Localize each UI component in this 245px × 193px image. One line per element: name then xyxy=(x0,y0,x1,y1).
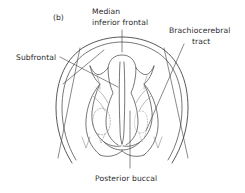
label-subfrontal: Subfrontal xyxy=(16,53,56,62)
right-dotted-oval xyxy=(135,111,148,133)
median-cleft-left xyxy=(119,62,122,144)
central-mass xyxy=(86,55,158,156)
anatomical-figure: (b) Median inferior frontal Brachiocereb… xyxy=(0,0,245,193)
left-lobe-medial-wall xyxy=(106,68,118,145)
median-dome xyxy=(108,55,136,68)
left-lateral-sheath xyxy=(86,84,100,155)
left-lobe-body xyxy=(90,66,121,146)
brachiocerebral-crossing-line xyxy=(164,48,188,158)
label-posterior-buccal: Posterior buccal xyxy=(95,174,157,183)
label-brachiocerebral-line1: Brachiocerebral xyxy=(169,26,230,35)
leader-lines xyxy=(58,30,188,168)
right-lobe-medial-wall xyxy=(126,68,138,145)
right-lobe-body xyxy=(123,66,154,146)
internal-striations xyxy=(93,76,151,111)
median-cleft-right xyxy=(122,62,125,144)
figure-drawing: (b) Median inferior frontal Brachiocereb… xyxy=(0,0,245,193)
left-outer-crossing-line xyxy=(58,48,80,158)
left-sheath-base xyxy=(100,151,122,156)
label-median-line2: inferior frontal xyxy=(92,18,148,27)
left-dotted-oval xyxy=(93,108,111,135)
inner-contour xyxy=(62,42,182,160)
panel-letter: (b) xyxy=(53,13,64,22)
label-median-line1: Median xyxy=(92,7,120,16)
label-brachiocerebral-line2: tract xyxy=(192,37,210,46)
subfrontal-leader-line xyxy=(60,57,118,87)
brachiocerebral-leader-line xyxy=(146,44,184,131)
right-sheath-base xyxy=(122,151,144,156)
